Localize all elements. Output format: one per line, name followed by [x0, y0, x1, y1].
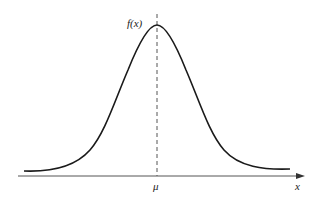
x-axis-arrow-icon [296, 173, 305, 179]
x-axis-label: x [294, 180, 300, 192]
normal-distribution-diagram: f(x) μ x [0, 0, 319, 203]
mu-label: μ [152, 180, 159, 192]
fx-label: f(x) [127, 17, 143, 30]
